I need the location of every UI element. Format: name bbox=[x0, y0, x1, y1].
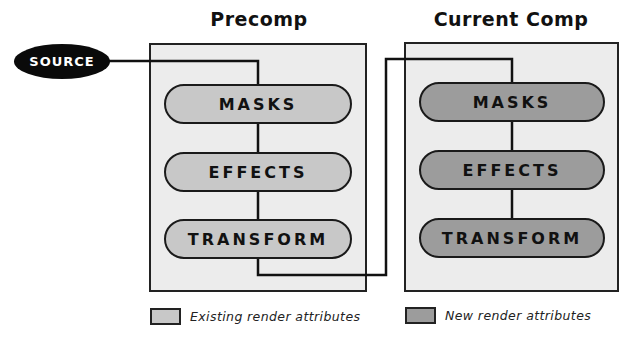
legend-new: New render attributes bbox=[405, 307, 591, 324]
precomp-masks-stage: MASKS bbox=[164, 84, 352, 124]
source-node: SOURCE bbox=[14, 44, 110, 79]
current-comp-title: Current Comp bbox=[404, 8, 618, 30]
legend-existing: Existing render attributes bbox=[150, 308, 360, 325]
precomp-transform-stage: TRANSFORM bbox=[164, 219, 352, 259]
precomp-title: Precomp bbox=[150, 8, 368, 30]
render-order-diagram: Precomp Current Comp SOURCE MASKS EFFECT… bbox=[0, 0, 637, 350]
existing-swatch bbox=[150, 308, 181, 325]
new-swatch bbox=[405, 307, 436, 324]
legend-existing-label: Existing render attributes bbox=[190, 309, 360, 324]
legend-new-label: New render attributes bbox=[445, 308, 591, 323]
precomp-effects-stage: EFFECTS bbox=[164, 152, 352, 192]
current-comp-effects-stage: EFFECTS bbox=[419, 150, 605, 190]
current-comp-masks-stage: MASKS bbox=[419, 82, 605, 122]
current-comp-transform-stage: TRANSFORM bbox=[419, 218, 605, 258]
